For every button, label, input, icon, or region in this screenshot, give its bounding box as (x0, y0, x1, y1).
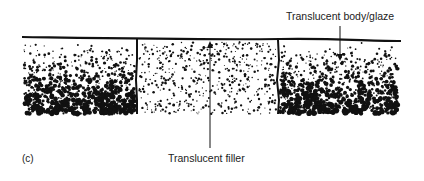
particle-stipple (23, 41, 401, 116)
panel-label: (c) (22, 153, 34, 164)
filler-label: Translucent filler (168, 152, 245, 164)
cross-section-diagram: Translucent body/glaze Translucent fille… (0, 0, 424, 181)
glaze-label: Translucent body/glaze (286, 10, 394, 22)
right-boundary-line (277, 40, 279, 114)
glaze-arrowhead (337, 54, 343, 61)
surface-line (22, 37, 401, 41)
left-boundary-line (136, 39, 137, 114)
